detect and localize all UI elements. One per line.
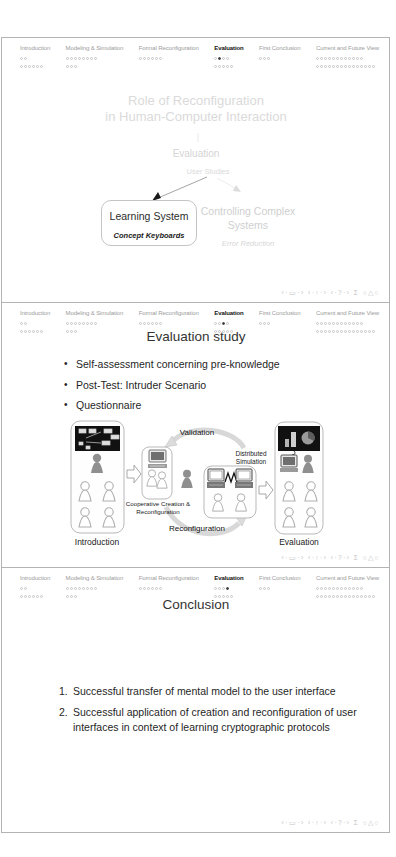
frame-dot[interactable]	[159, 587, 162, 590]
label-cooperative-2: Reconfiguration	[136, 508, 180, 515]
page-title: Conclusion	[2, 597, 390, 612]
bullet-icon: •	[64, 399, 76, 411]
block-arrow-icon	[259, 481, 273, 499]
frame-dot[interactable]	[263, 587, 266, 590]
learning-system-box: Learning System Concept Keyboards	[101, 200, 197, 246]
beamer-nav-symbols[interactable]: ‹·▭·› ‹·↑·› ‹·?·› Σ ○△○	[282, 554, 380, 562]
ccs-line-1: Controlling Complex	[193, 204, 303, 218]
slide-conclusion: IntroductionModeling & SimulationFormal …	[1, 567, 390, 833]
header-section-label: Modeling & Simulation	[66, 574, 124, 582]
header-section-formal-reconfiguration[interactable]: Formal Reconfiguration	[139, 574, 199, 598]
slide-role-of-reconfiguration: IntroductionModeling & SimulationFormal …	[1, 37, 390, 303]
header-section-introduction[interactable]: Introduction	[20, 574, 50, 598]
item-text: Post-Test: Intruder Scenario	[76, 379, 206, 391]
item-number: 2.	[59, 705, 73, 735]
list-item: •Self-assessment concerning pre-knowledg…	[64, 358, 280, 370]
header-section-label: Introduction	[20, 574, 50, 582]
frame-dot[interactable]	[139, 587, 142, 590]
slide-evaluation-study: IntroductionModeling & SimulationFormal …	[1, 302, 390, 568]
moderator-person-icon	[181, 470, 192, 488]
networked-computer-icon	[235, 469, 253, 488]
header-section-first-conclusion[interactable]: First Conclusion	[259, 574, 300, 598]
header-section-label: Evaluation	[214, 574, 243, 582]
header-section-label: First Conclusion	[259, 309, 300, 317]
beamer-nav-symbols[interactable]: ‹·▭·› ‹·↑·› ‹·?·› Σ ○△○	[282, 819, 380, 827]
error-reduction-label: Error Reduction	[193, 239, 303, 248]
frame-dot[interactable]	[263, 322, 266, 325]
header-section-label: First Conclusion	[259, 574, 300, 582]
item-text: Self-assessment concerning pre-knowledge	[76, 358, 280, 370]
evaluation-diagram: Introduction Cooperative Creation & Reco…	[61, 411, 353, 559]
frame-dot[interactable]	[147, 587, 150, 590]
faded-arrowhead-icon	[233, 185, 241, 192]
ccs-line-2: Systems	[193, 218, 303, 232]
list-item: 2.Successful application of creation and…	[59, 705, 359, 735]
bullet-icon: •	[64, 358, 76, 370]
item-number: 1.	[59, 684, 73, 699]
beamer-nav-symbols[interactable]: ‹·▭·› ‹·↑·› ‹·?·› Σ ○△○	[282, 289, 380, 297]
slide1-arrows	[2, 38, 390, 304]
label-introduction: Introduction	[75, 537, 120, 547]
header-section-label: Formal Reconfiguration	[139, 574, 199, 582]
computer-icon	[280, 455, 298, 472]
frame-dot[interactable]	[159, 322, 162, 325]
label-distributed-1: Distributed	[235, 450, 266, 457]
frame-dot[interactable]	[155, 587, 158, 590]
bullet-icon: •	[64, 379, 76, 391]
header-section-label: Formal Reconfiguration	[139, 309, 199, 317]
frame-dot[interactable]	[143, 587, 146, 590]
frame-dot[interactable]	[139, 322, 142, 325]
slide-deck: IntroductionModeling & SimulationFormal …	[1, 37, 390, 833]
header-section-evaluation[interactable]: Evaluation	[214, 574, 243, 598]
frame-dot[interactable]	[259, 322, 262, 325]
item-text: Successful application of creation and r…	[73, 705, 359, 735]
header-section-label: Current and Future View	[316, 574, 379, 582]
header-section-label: Introduction	[20, 309, 50, 317]
header-section-current-and-future-view[interactable]: Current and Future View	[316, 574, 379, 598]
frame-dot[interactable]	[267, 322, 270, 325]
label-validation: Validation	[180, 428, 215, 437]
item-text: Questionnaire	[76, 399, 141, 411]
frame-dot[interactable]	[155, 322, 158, 325]
page-title: Evaluation study	[2, 329, 390, 344]
conclusion-list: 1.Successful transfer of mental model to…	[59, 684, 359, 741]
computer-icon	[148, 450, 167, 468]
header-section-label: Modeling & Simulation	[66, 309, 124, 317]
frame-dot[interactable]	[267, 587, 270, 590]
learning-system-label: Learning System	[102, 210, 196, 222]
block-arrow-icon	[127, 465, 141, 483]
header-section-modeling-simulation[interactable]: Modeling & Simulation	[66, 574, 124, 598]
frame-dot[interactable]	[259, 587, 262, 590]
beamer-header: IntroductionModeling & SimulationFormal …	[2, 571, 389, 598]
arrow-to-learning-system	[158, 177, 207, 198]
header-section-label: Current and Future View	[316, 309, 379, 317]
frame-dot[interactable]	[143, 322, 146, 325]
list-item: •Questionnaire	[64, 399, 280, 411]
item-text: Successful transfer of mental model to t…	[73, 684, 336, 699]
label-evaluation: Evaluation	[279, 537, 319, 547]
networked-computer-icon	[207, 469, 225, 488]
faded-arrow	[217, 178, 235, 188]
label-distributed-2: Simulation	[236, 458, 267, 465]
list-item: •Post-Test: Intruder Scenario	[64, 379, 280, 391]
header-section-label: Evaluation	[214, 309, 243, 317]
frame-dot[interactable]	[151, 322, 154, 325]
label-cooperative-1: Cooperative Creation &	[126, 500, 191, 507]
controlling-complex-systems: Controlling Complex Systems	[193, 204, 303, 232]
concept-keyboards-label: Concept Keyboards	[102, 231, 196, 240]
frame-dot[interactable]	[147, 322, 150, 325]
frame-dot[interactable]	[151, 587, 154, 590]
label-reconfiguration: Reconfiguration	[169, 524, 225, 533]
list-item: 1.Successful transfer of mental model to…	[59, 684, 359, 699]
